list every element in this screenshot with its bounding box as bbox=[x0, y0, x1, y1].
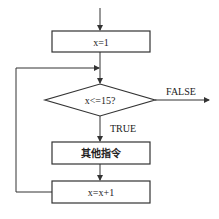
condition-diamond: x<=15? bbox=[45, 84, 155, 116]
init-label: x=1 bbox=[93, 37, 109, 48]
loop-back-arrow bbox=[16, 68, 99, 192]
increment-box: x=x+1 bbox=[52, 181, 150, 203]
condition-label: x<=15? bbox=[85, 95, 116, 106]
flowchart: x=1 x<=15? FALSE TRUE 其他指令 x=x+1 bbox=[0, 0, 219, 219]
false-label: FALSE bbox=[166, 86, 196, 97]
init-box: x=1 bbox=[52, 31, 150, 52]
other-instructions-box: 其他指令 bbox=[52, 142, 150, 164]
true-label: TRUE bbox=[110, 123, 136, 134]
increment-label: x=x+1 bbox=[88, 187, 114, 198]
other-instructions-label: 其他指令 bbox=[81, 147, 122, 159]
